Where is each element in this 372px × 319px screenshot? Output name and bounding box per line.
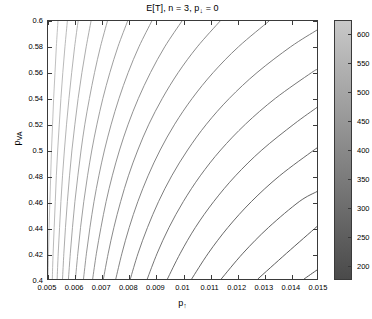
x-tick-label: 0.01	[175, 283, 190, 292]
y-tick-label: 0.52	[3, 120, 43, 129]
y-tick-mark	[48, 47, 52, 48]
colorbar-tick-mark	[348, 208, 352, 209]
x-tick-label: 0.007	[92, 283, 111, 292]
figure-contour-plot: E[T], n = 3, p↓ = 0 p↑ pVA 2002503003504…	[0, 0, 372, 319]
y-tick-label: 0.48	[3, 172, 43, 181]
y-tick-label: 0.5	[3, 146, 43, 155]
y-tick-label: 0.56	[3, 68, 43, 77]
y-tick-mark-right	[313, 151, 317, 152]
x-tick-label: 0.015	[309, 283, 328, 292]
y-tick-mark	[48, 255, 52, 256]
x-tick-mark	[156, 275, 157, 279]
colorbar-tick-label: 400	[357, 146, 370, 155]
contour-line	[52, 21, 67, 279]
y-axis-label-subscript: VA	[16, 132, 23, 141]
chart-title-main: E[T], n = 3, p	[146, 3, 199, 13]
y-tick-mark	[48, 73, 52, 74]
x-tick-mark	[292, 275, 293, 279]
contour-line	[116, 21, 269, 279]
x-tick-label: 0.012	[227, 283, 246, 292]
y-tick-mark	[48, 177, 52, 178]
contour-line	[63, 21, 92, 279]
y-tick-mark-right	[313, 21, 317, 22]
y-tick-mark-right	[313, 99, 317, 100]
x-tick-label: 0.011	[200, 283, 218, 292]
colorbar-tick-mark	[348, 237, 352, 238]
colorbar-tick-label: 300	[357, 203, 370, 212]
contour-line	[48, 21, 58, 279]
y-tick-mark-right	[313, 177, 317, 178]
contour-line	[93, 21, 182, 279]
colorbar-tick-mark	[348, 63, 352, 64]
x-tick-mark-top	[75, 21, 76, 25]
contour-line	[167, 107, 317, 279]
colorbar-tick-label: 450	[357, 117, 370, 126]
contour-line	[304, 270, 317, 279]
colorbar-tick-label: 250	[357, 232, 370, 241]
y-tick-mark	[48, 21, 52, 22]
x-tick-mark-top	[211, 21, 212, 25]
x-tick-mark	[75, 275, 76, 279]
y-tick-mark	[48, 151, 52, 152]
x-axis-label-subscript: ↑	[183, 302, 187, 309]
chart-title: E[T], n = 3, p↓ = 0	[47, 2, 318, 17]
contour-line	[103, 21, 220, 279]
x-tick-mark	[48, 275, 49, 279]
x-tick-mark	[184, 275, 185, 279]
y-tick-label: 0.6	[3, 16, 43, 25]
x-tick-mark	[238, 275, 239, 279]
y-tick-mark-right	[313, 47, 317, 48]
y-tick-label: 0.58	[3, 42, 43, 51]
y-tick-mark-right	[313, 125, 317, 126]
y-axis-label: pVA	[12, 109, 23, 169]
y-tick-label: 0.4	[3, 276, 43, 285]
x-tick-mark	[129, 275, 130, 279]
x-tick-label: 0.014	[282, 283, 301, 292]
contour-lines-svg	[48, 21, 317, 279]
x-tick-mark	[265, 275, 266, 279]
contour-line	[84, 21, 152, 279]
y-tick-mark-right	[313, 255, 317, 256]
y-tick-mark	[48, 99, 52, 100]
colorbar-tick-mark	[348, 266, 352, 267]
colorbar-tick-mark	[348, 179, 352, 180]
x-tick-label: 0.008	[119, 283, 138, 292]
colorbar-tick-mark	[348, 92, 352, 93]
x-tick-mark	[102, 275, 103, 279]
x-tick-mark-top	[156, 21, 157, 25]
contour-line	[192, 148, 317, 279]
contour-line	[57, 21, 78, 279]
contour-line	[221, 192, 317, 279]
x-tick-label: 0.006	[65, 283, 84, 292]
y-tick-mark-right	[313, 203, 317, 204]
y-tick-label: 0.46	[3, 198, 43, 207]
colorbar-tick-mark	[348, 121, 352, 122]
x-tick-mark-top	[102, 21, 103, 25]
x-tick-mark-top	[238, 21, 239, 25]
y-tick-mark-right	[313, 229, 317, 230]
colorbar-tick-mark	[348, 150, 352, 151]
colorbar-tick-label: 500	[357, 88, 370, 97]
x-tick-mark-top	[129, 21, 130, 25]
contour-line	[258, 226, 317, 279]
x-axis-label: p↑	[47, 298, 318, 309]
y-tick-label: 0.54	[3, 94, 43, 103]
y-tick-mark	[48, 229, 52, 230]
colorbar-tick-label: 350	[357, 174, 370, 183]
colorbar-tick-mark	[348, 34, 352, 35]
x-tick-label: 0.013	[254, 283, 273, 292]
y-tick-label: 0.42	[3, 250, 43, 259]
x-tick-mark-top	[265, 21, 266, 25]
chart-title-tail: = 0	[203, 3, 219, 13]
y-tick-mark	[48, 125, 52, 126]
x-tick-label: 0.009	[146, 283, 165, 292]
y-tick-mark	[48, 203, 52, 204]
colorbar-tick-label: 200	[357, 261, 370, 270]
x-tick-mark-top	[292, 21, 293, 25]
plot-area	[47, 20, 318, 280]
colorbar-tick-label: 550	[357, 59, 370, 68]
y-tick-mark-right	[313, 73, 317, 74]
x-tick-mark-top	[184, 21, 185, 25]
colorbar-tick-label: 600	[357, 30, 370, 39]
y-tick-label: 0.44	[3, 224, 43, 233]
